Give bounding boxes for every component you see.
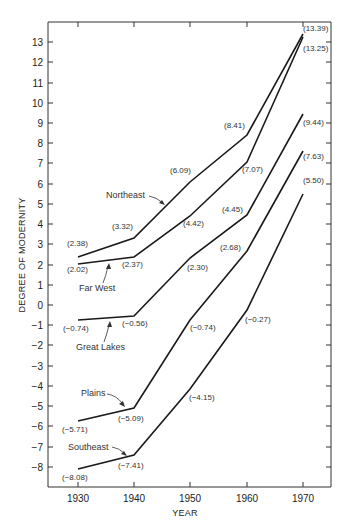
x-axis-ticks (78, 22, 303, 487)
y-tick-label: 0 (37, 300, 43, 311)
series-label-northeast: Northeast (106, 190, 146, 200)
data-label: (2.02) (67, 265, 88, 274)
y-tick-label: −4 (32, 381, 44, 392)
y-tick-label: 8 (37, 138, 43, 149)
y-tick-label: 9 (37, 118, 43, 129)
data-label: (4.42) (183, 219, 204, 228)
y-tick-label: 12 (32, 57, 44, 68)
data-label: (2.38) (67, 239, 88, 248)
y-tick-label: 11 (33, 78, 44, 89)
data-label: (−0.74) (63, 324, 89, 333)
series-label-southeast: Southeast (68, 442, 109, 452)
y-tick-label: −2 (32, 340, 44, 351)
data-label: (−0.27) (245, 315, 271, 324)
y-tick-label: 7 (37, 158, 43, 169)
y-tick-label: −5 (32, 401, 44, 412)
x-tick-label: 1960 (236, 493, 259, 504)
arrow-icon (104, 325, 109, 342)
y-tick-label: −7 (32, 442, 44, 453)
data-label: (−0.56) (122, 319, 148, 328)
plot-frame (48, 22, 331, 487)
data-label: (−4.15) (189, 393, 215, 402)
series-lines (78, 34, 303, 469)
y-tick-label: −1 (32, 320, 44, 331)
y-tick-label: 13 (32, 37, 44, 48)
line-chart: 13 12 11 10 9 8 7 6 5 4 3 2 1 0 −1 −2 −3… (0, 0, 350, 525)
series-label-great-lakes: Great Lakes (76, 342, 126, 352)
data-label: (7.07) (242, 165, 263, 174)
data-label: (13.39) (303, 24, 329, 33)
y-tick-label: 1 (37, 280, 43, 291)
y-tick-label: −3 (32, 361, 44, 372)
y-tick-label: 6 (37, 179, 43, 190)
x-tick-label: 1970 (292, 493, 315, 504)
x-axis-title: YEAR (172, 508, 198, 518)
data-label: (−7.41) (118, 461, 144, 470)
series-label-far-west: Far West (79, 283, 116, 293)
data-labels-far-west: (2.02) (2.37) (4.42) (7.07) (13.25) (67, 44, 329, 274)
y-tick-label: −6 (32, 421, 44, 432)
arrow-icon (107, 394, 123, 404)
y-tick-label: −8 (32, 462, 44, 473)
data-label: (2.37) (122, 260, 143, 269)
y-axis-ticks (48, 42, 331, 467)
y-axis-title: DEGREE OF MODERNITY (17, 197, 27, 312)
arrowhead-icon (121, 451, 127, 456)
data-label: (8.41) (224, 121, 245, 130)
data-label: (13.25) (303, 44, 329, 53)
arrowhead-icon (119, 401, 125, 407)
data-label: (−0.74) (190, 323, 216, 332)
data-label: (5.50) (303, 176, 324, 185)
data-label: (6.09) (170, 166, 191, 175)
data-label: (−5.09) (118, 414, 144, 423)
x-tick-labels: 1930 1940 1950 1960 1970 (67, 493, 315, 504)
y-tick-label: 10 (32, 98, 44, 109)
y-tick-label: 2 (37, 260, 43, 271)
arrowhead-icon (107, 321, 112, 327)
series-label-plains: Plains (81, 388, 106, 398)
data-label: (2.68) (220, 243, 241, 252)
x-tick-label: 1940 (123, 493, 146, 504)
data-label: (4.45) (222, 205, 243, 214)
y-tick-label: 4 (37, 219, 43, 230)
data-label: (9.44) (303, 118, 324, 127)
arrow-icon (112, 447, 124, 453)
data-label: (2.30) (187, 263, 208, 272)
y-tick-label: 5 (37, 199, 43, 210)
y-tick-label: 3 (37, 239, 43, 250)
x-tick-label: 1930 (67, 493, 90, 504)
data-label: (3.32) (112, 222, 133, 231)
data-label: (−8.08) (62, 473, 88, 482)
data-label: (−5.71) (62, 425, 88, 434)
arrowhead-icon (106, 263, 111, 269)
x-tick-label: 1950 (179, 493, 202, 504)
data-label: (7.63) (303, 152, 324, 161)
y-tick-labels: 13 12 11 10 9 8 7 6 5 4 3 2 1 0 −1 −2 −3… (32, 37, 44, 473)
